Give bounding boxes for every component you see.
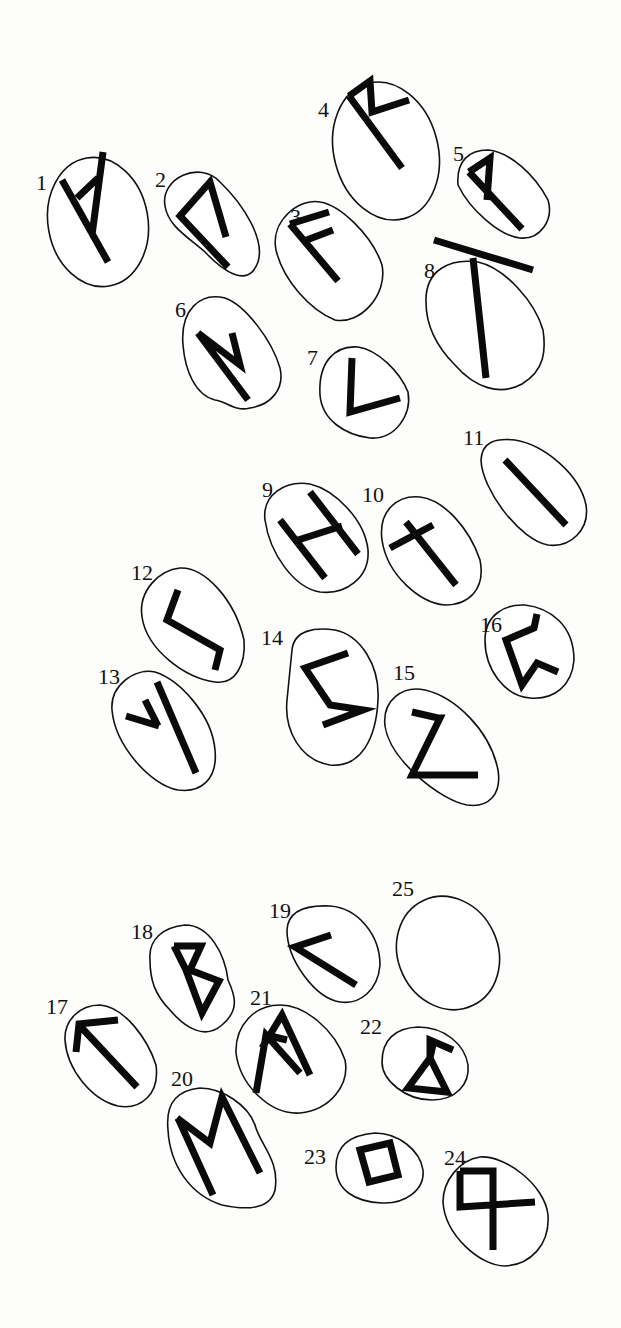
stone-number-19: 19 xyxy=(269,898,291,923)
stone-11: 11 xyxy=(463,425,587,545)
stone-number-18: 18 xyxy=(131,919,153,944)
stone-number-25: 25 xyxy=(392,876,414,901)
stone-17: 17 xyxy=(46,994,157,1107)
stone-6: 6 xyxy=(175,297,281,409)
stone-2: 2 xyxy=(155,167,259,276)
stone-16: 16 xyxy=(480,605,574,698)
stone-number-11: 11 xyxy=(463,425,484,450)
stone-13: 13 xyxy=(98,664,215,790)
stone-12: 12 xyxy=(131,560,244,682)
stone-10: 10 xyxy=(362,482,481,605)
stone-number-9: 9 xyxy=(262,477,273,502)
stone-number-10: 10 xyxy=(362,482,384,507)
stone-14: 14 xyxy=(261,625,378,765)
stone-5: 5 xyxy=(453,141,549,238)
stone-19: 19 xyxy=(269,898,380,1002)
stone-number-14: 14 xyxy=(261,625,283,650)
stone-9: 9 xyxy=(262,477,368,592)
stone-number-24: 24 xyxy=(444,1145,466,1170)
stone-number-3: 3 xyxy=(290,204,301,229)
stone-number-16: 16 xyxy=(480,612,502,637)
stone-15: 15 xyxy=(385,660,499,805)
stone-number-7: 7 xyxy=(307,345,318,370)
stone-8: 8 xyxy=(424,240,544,390)
stone-number-17: 17 xyxy=(46,994,68,1019)
stone-number-6: 6 xyxy=(175,297,186,322)
rune-stones-figure: 1 2 3 4 5 6 7 8 xyxy=(0,0,621,1328)
stone-21: 21 xyxy=(236,985,346,1113)
stone-number-21: 21 xyxy=(250,985,272,1010)
stone-22: 22 xyxy=(360,1014,468,1100)
stone-23: 23 xyxy=(304,1133,423,1203)
stone-25: 25 xyxy=(378,876,518,1027)
stone-4: 4 xyxy=(318,70,455,232)
stone-1: 1 xyxy=(36,149,159,294)
stone-number-2: 2 xyxy=(155,167,166,192)
stone-number-15: 15 xyxy=(393,660,415,685)
stone-3: 3 xyxy=(275,202,383,321)
stone-number-12: 12 xyxy=(131,560,153,585)
stone-18: 18 xyxy=(131,919,234,1032)
stone-24: 24 xyxy=(443,1145,548,1266)
stone-number-1: 1 xyxy=(36,170,47,195)
stone-number-5: 5 xyxy=(453,141,464,166)
stone-number-4: 4 xyxy=(318,97,329,122)
stone-number-8: 8 xyxy=(424,258,435,283)
stone-number-22: 22 xyxy=(360,1014,382,1039)
stone-number-23: 23 xyxy=(304,1144,326,1169)
stone-number-20: 20 xyxy=(171,1066,193,1091)
stone-number-13: 13 xyxy=(98,664,120,689)
stone-7: 7 xyxy=(307,345,409,438)
